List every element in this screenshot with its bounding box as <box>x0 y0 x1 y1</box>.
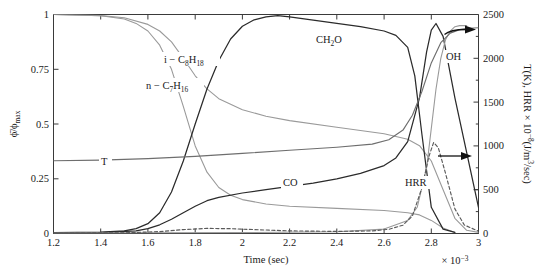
xtick-label: 2 <box>240 237 245 248</box>
x-axis-ticks <box>54 15 479 234</box>
xtick-label: 2.6 <box>378 237 391 248</box>
y-axis-left-title: ϕ̄/ϕmax <box>8 110 22 137</box>
y-axis-left-title-text: ϕ̄/ϕ <box>8 123 19 137</box>
x-axis-title: Time (sec) <box>244 254 289 266</box>
svg-text:× 10−3: × 10−3 <box>442 254 469 267</box>
x-multiplier-times: × 10 <box>442 255 461 266</box>
series-label-hrr: HRR <box>403 176 434 189</box>
y2-title-part2: (J/m <box>521 142 533 161</box>
svg-text:ϕ̄/ϕmax: ϕ̄/ϕmax <box>8 110 22 137</box>
series-curve-temperature <box>54 28 479 161</box>
series-label-temperature-text: T <box>101 156 108 167</box>
series-label-n-c7h16: n − C7H16 <box>144 78 204 94</box>
series-label-oh: OH <box>444 50 468 63</box>
xtick-label: 2.4 <box>330 237 344 248</box>
axes-frame <box>54 15 479 234</box>
combustion-ignition-chart: 1.2 1.4 1.6 1.8 2 2.2 2.4 2.6 2.8 3 0 0.… <box>0 0 535 279</box>
series-label-ch2o-text: CH <box>316 34 331 45</box>
y2tick-label: 500 <box>483 184 499 195</box>
series-curve-co <box>54 24 479 234</box>
series-curve-oh <box>54 26 467 234</box>
series-curve-n-c7h16 <box>54 15 455 233</box>
series-curve-i-c8h18 <box>54 15 479 233</box>
ytick-label: 0.75 <box>31 64 49 75</box>
xtick-label: 1.4 <box>94 237 108 248</box>
series-label-i-c8h18-text: i − C <box>164 54 185 65</box>
xtick-label: 1.6 <box>141 237 154 248</box>
y2tick-label: 0 <box>483 228 488 239</box>
series-label-ch2o: CH2O <box>314 33 348 48</box>
ytick-label: 0.25 <box>31 173 49 184</box>
series-label-n-c7h16-sub2: 16 <box>181 85 189 94</box>
xtick-label: 2.2 <box>283 237 296 248</box>
series-label-co: CO <box>281 176 303 189</box>
x-multiplier-exp: −3 <box>461 254 469 263</box>
y-left-tick-labels: 0 0.25 0.5 0.75 1 <box>31 9 49 239</box>
ytick-label: 1 <box>44 9 49 20</box>
series-label-i-c8h18-sub2: 18 <box>196 59 204 68</box>
y2tick-label: 2000 <box>483 53 504 64</box>
xtick-label: 2.8 <box>425 237 438 248</box>
chart-svg: 1.2 1.4 1.6 1.8 2 2.2 2.4 2.6 2.8 3 0 0.… <box>0 0 535 279</box>
y-right-tick-labels: 0 500 1000 1500 2000 2500 <box>483 9 504 239</box>
y-axis-left-title-sub: max <box>13 110 22 123</box>
svg-text:T(K), HRR × 10−8(J/m3/sec): T(K), HRR × 10−8(J/m3/sec) <box>521 64 535 184</box>
series-label-co-text: CO <box>283 177 298 188</box>
y-axis-left-ticks <box>54 15 59 234</box>
y2tick-label: 2500 <box>483 9 504 20</box>
ytick-label: 0.5 <box>36 119 49 130</box>
y-axis-right-ticks <box>474 15 479 234</box>
series-label-oh-text: OH <box>446 51 462 62</box>
series-curve-ch2o <box>54 16 455 233</box>
xtick-label: 1.8 <box>189 237 202 248</box>
y2tick-label: 1000 <box>483 140 504 151</box>
y2-title-part3: /sec) <box>521 164 533 184</box>
series-label-i-c8h18: i − C8H18 <box>162 52 220 68</box>
y2tick-label: 1500 <box>483 97 504 108</box>
y-axis-right-title: T(K), HRR × 10−8(J/m3/sec) <box>521 64 535 184</box>
ytick-label: 0 <box>44 228 49 239</box>
series-label-temperature: T <box>99 155 112 168</box>
series-label-ch2o-mid: O <box>334 34 342 45</box>
x-axis-multiplier: × 10−3 <box>442 254 469 267</box>
y2-title-part1: T(K), HRR × 10 <box>521 64 533 134</box>
x-tick-labels: 1.2 1.4 1.6 1.8 2 2.2 2.4 2.6 2.8 3 <box>47 237 481 248</box>
series-label-n-c7h16-text: n − C <box>146 80 169 91</box>
series-label-hrr-text: HRR <box>405 177 427 188</box>
xtick-label: 3 <box>476 237 481 248</box>
